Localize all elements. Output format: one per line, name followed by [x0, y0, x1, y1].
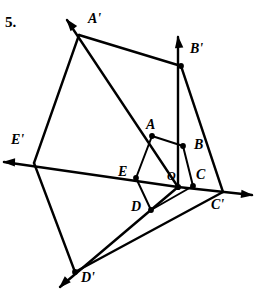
- arrowhead-A_prime: [66, 19, 77, 31]
- label-B: B: [194, 138, 203, 152]
- vertex-dot-E: [133, 175, 139, 181]
- edge-B-C: [183, 146, 193, 186]
- label-C: C: [196, 168, 205, 182]
- label-D: D: [131, 200, 141, 214]
- problem-number: 5.: [5, 15, 16, 30]
- outer-polygon-edges: [34, 35, 223, 272]
- label-O-center: O: [167, 170, 176, 182]
- vertex-dot-B_prime: [178, 63, 184, 69]
- arrowhead-E_prime: [3, 158, 16, 166]
- ray-O-E_prime: [4, 162, 178, 187]
- vertex-dot-D_prime: [72, 269, 78, 275]
- label-B-prime: B': [190, 42, 203, 56]
- vertex-dot-C: [190, 183, 196, 189]
- label-C-prime: C': [211, 198, 224, 212]
- vertex-dot-D: [148, 207, 154, 213]
- edge-C-D: [151, 186, 193, 210]
- label-D-prime: D': [81, 271, 95, 285]
- edge-D_prime-E_prime: [34, 163, 75, 272]
- label-A-prime: A': [88, 12, 101, 26]
- dilation-rays: [4, 20, 252, 287]
- ray-arrowheads: [3, 19, 254, 288]
- vertex-dot-A: [149, 133, 155, 139]
- edge-E-A: [136, 136, 152, 178]
- label-A: A: [146, 118, 155, 132]
- geometry-figure: 5. A B C D E O A' B' C' D' E': [0, 0, 263, 297]
- vertex-dot-B: [180, 143, 186, 149]
- label-E: E: [118, 165, 127, 179]
- label-E-prime: E': [11, 133, 24, 147]
- ray-O-A_prime: [67, 20, 178, 187]
- dilation-diagram: [0, 0, 263, 297]
- edge-E_prime-A_prime: [34, 35, 79, 163]
- vertex-dot-O: [175, 184, 181, 190]
